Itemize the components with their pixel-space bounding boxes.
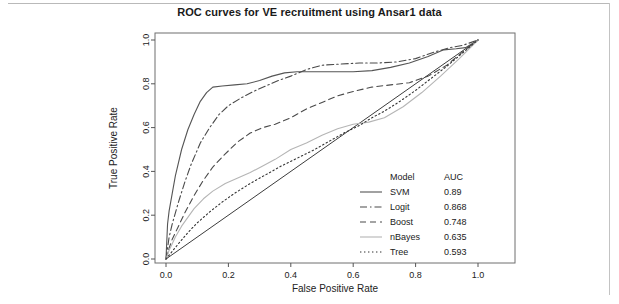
y-tick-label: 0.4 (141, 165, 151, 178)
legend-auc-nbayes: 0.635 (444, 232, 467, 242)
x-tick-label: 0.0 (160, 270, 173, 280)
x-tick-label: 0.2 (222, 270, 235, 280)
chart-legend: ModelAUCSVM0.89Logit0.868Boost0.748nBaye… (360, 172, 467, 257)
y-tick-label: 0.0 (141, 253, 151, 266)
chance-diagonal-line (166, 40, 478, 259)
roc-curves (166, 40, 478, 259)
legend-label-tree: Tree (390, 247, 408, 257)
legend-auc-logit: 0.868 (444, 202, 467, 212)
legend-label-logit: Logit (390, 202, 410, 212)
roc-chart: 0.00.20.40.60.81.00.00.20.40.60.81.0 Fal… (0, 0, 619, 304)
y-tick-label: 0.6 (141, 121, 151, 134)
y-axis-title: True Positive Rate (108, 107, 119, 189)
figure-card: ROC curves for VE recruitment using Ansa… (0, 0, 619, 304)
legend-label-boost: Boost (390, 217, 414, 227)
x-tick-label: 0.8 (409, 270, 422, 280)
x-axis-title: False Positive Rate (292, 283, 379, 294)
legend-auc-svm: 0.89 (444, 187, 462, 197)
y-tick-label: 1.0 (141, 34, 151, 47)
legend-label-nbayes: nBayes (390, 232, 421, 242)
legend-header-auc: AUC (444, 172, 464, 182)
y-tick-label: 0.2 (141, 209, 151, 222)
x-tick-label: 0.4 (285, 270, 298, 280)
axis-ticks: 0.00.20.40.60.81.00.00.20.40.60.81.0 (141, 34, 484, 280)
legend-label-svm: SVM (390, 187, 410, 197)
legend-header-model: Model (390, 172, 415, 182)
x-tick-label: 1.0 (472, 270, 485, 280)
legend-auc-boost: 0.748 (444, 217, 467, 227)
x-tick-label: 0.6 (347, 270, 360, 280)
legend-auc-tree: 0.593 (444, 247, 467, 257)
y-tick-label: 0.8 (141, 78, 151, 91)
